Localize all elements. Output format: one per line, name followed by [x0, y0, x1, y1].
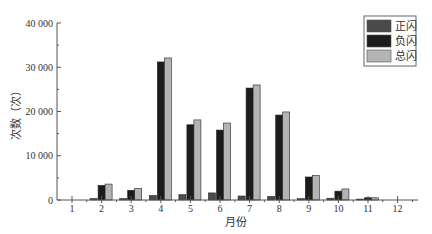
- legend: 正闪负闪总闪: [364, 16, 417, 66]
- bar-负闪-8: [276, 115, 283, 200]
- bar-负闪-4: [157, 62, 164, 200]
- x-axis-title: 月份: [225, 216, 247, 229]
- x-tick-label: 12: [393, 203, 403, 214]
- legend-label: 正闪: [395, 19, 417, 33]
- y-tick-label: 10 000: [26, 150, 54, 161]
- bar-负闪-6: [217, 130, 224, 200]
- bar-总闪-3: [135, 188, 142, 200]
- bar-正闪-6: [209, 193, 216, 200]
- x-tick-label: 9: [306, 203, 311, 214]
- x-tick-label: 6: [218, 203, 223, 214]
- x-tick-label: 5: [188, 203, 193, 214]
- x-tick-label: 11: [363, 203, 373, 214]
- x-tick-label: 1: [70, 203, 75, 214]
- legend-label: 负闪: [395, 34, 417, 48]
- bar-总闪-5: [194, 120, 201, 200]
- x-tick-label: 8: [277, 203, 282, 214]
- x-tick-label: 7: [247, 203, 252, 214]
- legend-swatch: [367, 50, 391, 62]
- x-tick-label: 3: [129, 203, 134, 214]
- legend-swatch: [367, 35, 391, 47]
- bar-负闪-5: [187, 125, 194, 200]
- bar-总闪-8: [283, 112, 290, 200]
- legend-swatch: [367, 20, 391, 32]
- bar-chart: 010 00020 00030 00040 000123456789101112…: [0, 0, 432, 234]
- y-tick-label: 30 000: [26, 62, 54, 73]
- bar-总闪-10: [342, 189, 349, 200]
- bar-总闪-6: [224, 123, 231, 200]
- x-tick-label: 2: [99, 203, 104, 214]
- bar-总闪-4: [164, 58, 171, 200]
- bar-正闪-4: [149, 196, 156, 200]
- bar-总闪-9: [312, 176, 319, 200]
- bar-正闪-7: [238, 196, 245, 200]
- bar-总闪-2: [105, 184, 112, 200]
- legend-label: 总闪: [395, 49, 417, 63]
- y-tick-label: 20 000: [26, 106, 54, 117]
- x-tick-label: 4: [158, 203, 163, 214]
- y-axis-title: 次数（次）: [9, 85, 23, 140]
- x-tick-label: 10: [333, 203, 343, 214]
- y-tick-label: 40 000: [26, 18, 54, 29]
- bar-正闪-5: [179, 195, 186, 200]
- y-tick-label: 0: [48, 195, 53, 206]
- bar-正闪-8: [268, 196, 275, 200]
- bars-group: [90, 58, 378, 200]
- bar-负闪-7: [246, 88, 253, 200]
- bar-总闪-7: [253, 85, 260, 200]
